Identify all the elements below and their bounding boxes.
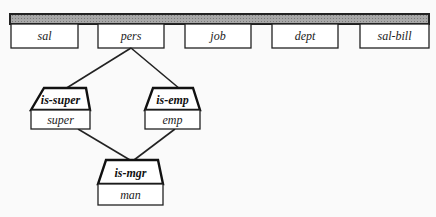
top-box-label: sal-bill [377,29,412,43]
top-box-sal: sal [11,24,78,48]
node-header-label: is-mgr [114,166,146,180]
node-mgr: is-mgr man [98,160,163,205]
edge-pers-super [65,48,131,89]
node-label: man [120,188,141,202]
node-super: is-super super [31,88,90,129]
edge-super-mgr [78,129,130,160]
node-header-label: is-emp [156,93,189,107]
top-box-label: dept [295,29,316,43]
node-emp: is-emp emp [145,88,200,129]
node-label: super [47,113,74,127]
edge-pers-emp [131,48,180,89]
top-box-label: job [208,29,225,43]
node-header-label: is-super [41,93,81,107]
top-box-dept: dept [272,24,338,48]
top-box-label: sal [37,29,52,43]
top-box-pers: pers [98,24,164,48]
top-box-job: job [185,24,251,48]
top-bar [10,14,429,24]
top-box-sal-bill: sal-bill [360,24,429,48]
top-box-label: pers [120,29,142,43]
inheritance-diagram: sal pers job dept sal-bill is-super supe… [0,0,436,217]
edge-emp-mgr [134,129,175,160]
node-label: emp [163,113,183,127]
